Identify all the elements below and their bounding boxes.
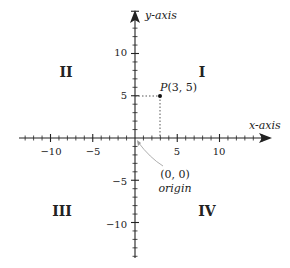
x-tick-label-5: 5: [174, 146, 180, 157]
quadrant-label-iv: IV: [198, 203, 217, 219]
diagram-canvas: −10 −5 5 10 10 5 −5 −10 y-axis x-axis I …: [0, 0, 290, 268]
x-tick-label-neg5: −5: [86, 146, 101, 157]
origin-coords-label: (0, 0): [160, 168, 190, 181]
quadrant-label-i: I: [199, 64, 206, 80]
x-tick-label-neg10: −10: [40, 146, 61, 157]
y-axis-label: y-axis: [144, 9, 177, 22]
quadrant-label-iii: III: [52, 203, 72, 219]
point-p-coords: (3, 5): [167, 81, 197, 94]
origin-pointer-line: [138, 142, 163, 166]
origin-label: origin: [158, 182, 191, 195]
y-tick-label-neg10: −10: [106, 219, 127, 230]
coordinate-plane-diagram: −10 −5 5 10 10 5 −5 −10 y-axis x-axis I …: [0, 0, 290, 268]
x-tick-label-10: 10: [213, 146, 226, 157]
point-p-label: P(3, 5): [159, 81, 197, 94]
y-tick-label-5: 5: [121, 90, 127, 101]
x-axis-label: x-axis: [249, 119, 281, 132]
y-tick-label-10: 10: [114, 47, 127, 58]
quadrant-label-ii: II: [59, 64, 72, 80]
point-p-marker: [158, 94, 162, 98]
y-tick-label-neg5: −5: [112, 176, 127, 187]
